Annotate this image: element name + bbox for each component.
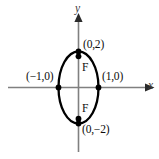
x-axis-label: x [148,80,153,92]
label-vertex-top: (0,2) [83,39,104,51]
point-focus-bottom [76,116,82,122]
ellipse-figure: (0,2) (0,−2) (−1,0) (1,0) F F y x [0,0,159,159]
point-covertex-right [96,85,102,91]
label-vertex-bottom: (0,−2) [82,124,109,136]
ellipse-plot-svg [0,0,159,159]
point-covertex-left [56,85,62,91]
point-focus-top [76,53,82,59]
label-covertex-left: (−1,0) [26,71,53,83]
y-axis-label: y [75,3,80,15]
label-focus-top: F [82,62,88,74]
label-focus-bottom: F [82,103,88,115]
label-covertex-right: (1,0) [102,71,123,83]
